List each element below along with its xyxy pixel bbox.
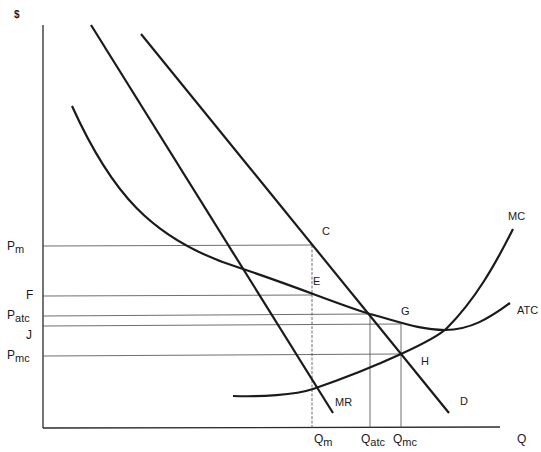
mc-label: MC (508, 211, 525, 222)
qatc-sub: atc (370, 436, 385, 448)
atc-label: ATC (517, 305, 538, 316)
point-c-label: C (322, 226, 330, 237)
mr-label: MR (335, 397, 352, 408)
price-label-patc: Patc (7, 309, 30, 321)
guide-j (43, 324, 401, 326)
patc-sub: atc (15, 312, 30, 324)
qmc-main: Q (393, 432, 402, 446)
demand-label: D (460, 396, 468, 407)
y-axis-label: $ (14, 10, 20, 20)
price-label-pm: Pm (7, 240, 24, 252)
guide-pmc (43, 354, 401, 356)
point-g-label: G (401, 306, 410, 317)
price-label-f: F (26, 289, 33, 301)
pmc-sub: mc (15, 352, 30, 364)
mc-curve (233, 229, 513, 396)
quantity-label-qatc: Qatc (361, 433, 385, 445)
point-e-label: E (313, 276, 320, 287)
pm-sub: m (15, 243, 24, 255)
price-label-j: J (26, 329, 32, 341)
qm-sub: m (323, 436, 332, 448)
x-axis (43, 427, 500, 428)
patc-main: P (7, 308, 15, 322)
guide-pm (43, 245, 312, 246)
monopoly-cost-diagram (0, 0, 541, 452)
qm-main: Q (314, 432, 323, 446)
quantity-label-qmc: Qmc (393, 433, 417, 445)
pmc-main: P (7, 348, 15, 362)
guide-patc (43, 314, 370, 316)
demand-curve (141, 34, 449, 413)
quantity-label-qm: Qm (314, 433, 333, 445)
price-label-pmc: Pmc (7, 349, 30, 361)
x-axis-label: Q (517, 433, 526, 445)
qatc-main: Q (361, 432, 370, 446)
qmc-sub: mc (402, 436, 417, 448)
guide-f (43, 295, 312, 296)
point-h-label: H (421, 356, 429, 367)
pm-main: P (7, 239, 15, 253)
